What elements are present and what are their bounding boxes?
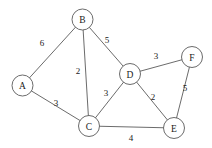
- graph-node-e: E: [164, 118, 185, 139]
- node-label-e: E: [171, 124, 177, 134]
- graph-node-c: C: [79, 116, 100, 137]
- node-label-b: B: [79, 15, 85, 25]
- graph-edge-a-b: [30, 27, 76, 77]
- graph-node-b: B: [72, 9, 93, 30]
- edge-weight-d-e: 2: [151, 92, 156, 102]
- edge-weight-c-d: 3: [104, 88, 109, 98]
- graph-node-a: A: [12, 75, 33, 96]
- node-label-d: D: [127, 70, 134, 80]
- edge-weight-d-f: 3: [154, 51, 159, 61]
- graph-node-d: D: [120, 64, 141, 85]
- graph-edge-b-d: [89, 27, 123, 66]
- node-label-c: C: [86, 122, 92, 132]
- graph-edge-d-f: [140, 60, 182, 71]
- node-label-a: A: [19, 81, 26, 91]
- graph-edge-c-d: [96, 82, 124, 118]
- weighted-graph-figure: ABCDEF 632534235: [0, 0, 212, 148]
- edge-weight-a-c: 3: [54, 98, 59, 108]
- edge-weight-e-f: 5: [183, 83, 188, 93]
- edge-weight-c-e: 4: [129, 133, 134, 143]
- graph-canvas: ABCDEF 632534235: [0, 0, 212, 148]
- graph-edge-c-e: [100, 126, 164, 128]
- edge-weight-a-b: 6: [40, 38, 45, 48]
- node-label-f: F: [189, 53, 194, 63]
- graph-edge-b-c: [83, 30, 88, 116]
- edges-layer: [30, 27, 190, 127]
- nodes-layer: ABCDEF: [12, 9, 203, 139]
- edge-weight-b-d: 5: [105, 35, 110, 45]
- graph-node-f: F: [182, 47, 203, 68]
- edge-weight-b-c: 2: [76, 66, 81, 76]
